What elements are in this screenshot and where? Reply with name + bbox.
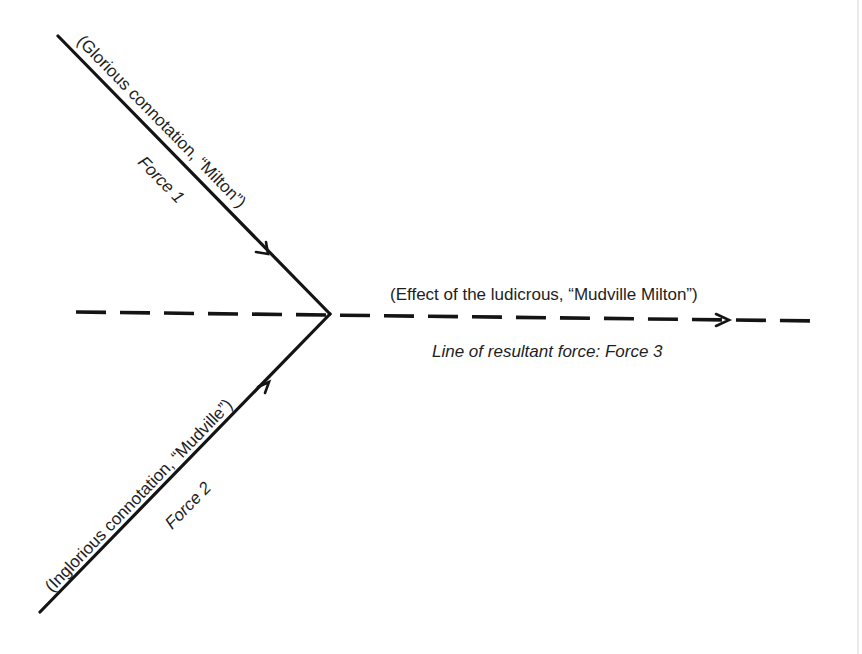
force-diagram: (Glorious connotation, “Milton”) Force 1… [0, 0, 862, 654]
force1-line [58, 36, 330, 314]
resultant-effect-label: (Effect of the ludicrous, “Mudville Milt… [390, 285, 698, 304]
force2-name-label: Force 2 [161, 478, 215, 533]
force2-line [40, 314, 330, 612]
resultant-force-label: Line of resultant force: Force 3 [432, 342, 663, 361]
resultant-force-line [76, 312, 818, 326]
force2-arrow-icon [258, 382, 269, 393]
